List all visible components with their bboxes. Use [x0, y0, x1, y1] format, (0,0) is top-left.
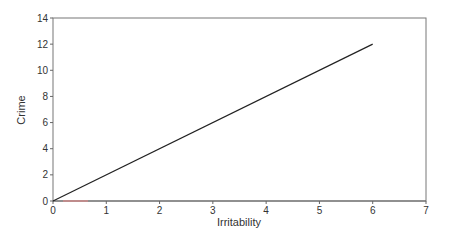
y-tick-label: 6 [42, 117, 48, 128]
y-tick-label: 14 [37, 13, 49, 24]
x-tick-label: 6 [370, 205, 376, 216]
x-tick-label: 0 [50, 205, 56, 216]
x-tick-label: 1 [104, 205, 110, 216]
x-tick-label: 3 [210, 205, 216, 216]
y-tick-label: 12 [37, 39, 49, 50]
y-tick-label: 4 [42, 143, 48, 154]
data-line [53, 44, 373, 201]
y-tick-label: 8 [42, 91, 48, 102]
y-tick-label: 0 [42, 196, 48, 207]
y-tick-label: 2 [42, 169, 48, 180]
y-tick-label: 10 [37, 65, 49, 76]
y-axis-title: Crime [15, 95, 27, 124]
x-tick-label: 7 [423, 205, 429, 216]
x-tick-label: 4 [263, 205, 269, 216]
y-axis: 02468101214 [37, 13, 53, 207]
x-axis-title: Irritability [217, 216, 262, 228]
chart: 02468101214 01234567 Irritability Crime [0, 0, 450, 241]
x-axis: 01234567 [50, 201, 429, 216]
x-tick-label: 5 [317, 205, 323, 216]
x-tick-label: 2 [157, 205, 163, 216]
